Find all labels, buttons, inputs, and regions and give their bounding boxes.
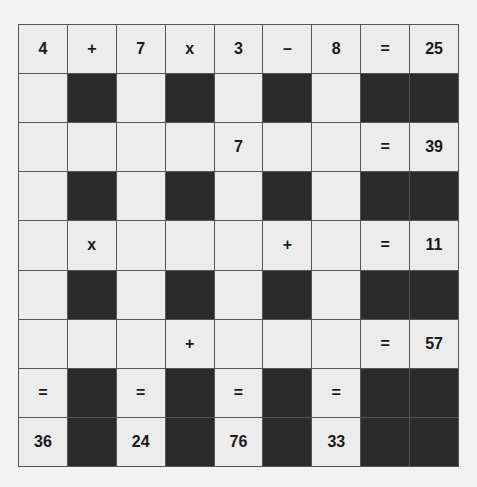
empty-input-cell[interactable] <box>117 74 165 122</box>
number-cell: 25 <box>410 25 458 73</box>
empty-input-cell[interactable] <box>117 172 165 220</box>
number-cell: 11 <box>410 221 458 269</box>
empty-input-cell[interactable] <box>19 320 67 368</box>
empty-input-cell[interactable] <box>263 123 311 171</box>
math-crossword-grid: 4+7x3–8=257=39x+=11+=57====36247633 <box>18 24 459 467</box>
black-cell <box>410 172 458 220</box>
empty-input-cell[interactable] <box>312 320 360 368</box>
black-cell <box>361 271 409 319</box>
empty-input-cell[interactable] <box>166 221 214 269</box>
operator-cell: + <box>68 25 116 73</box>
empty-input-cell[interactable] <box>117 123 165 171</box>
number-cell: 76 <box>215 418 263 466</box>
empty-input-cell[interactable] <box>19 221 67 269</box>
number-cell: 7 <box>117 25 165 73</box>
empty-input-cell[interactable] <box>19 123 67 171</box>
black-cell <box>361 418 409 466</box>
empty-input-cell[interactable] <box>215 74 263 122</box>
black-cell <box>361 172 409 220</box>
empty-input-cell[interactable] <box>215 221 263 269</box>
number-cell: 57 <box>410 320 458 368</box>
operator-cell: x <box>68 221 116 269</box>
number-cell: 39 <box>410 123 458 171</box>
empty-input-cell[interactable] <box>215 271 263 319</box>
black-cell <box>410 74 458 122</box>
black-cell <box>263 271 311 319</box>
black-cell <box>410 271 458 319</box>
operator-cell: = <box>361 320 409 368</box>
empty-input-cell[interactable] <box>312 123 360 171</box>
empty-input-cell[interactable] <box>117 271 165 319</box>
operator-cell: = <box>361 123 409 171</box>
number-cell: 3 <box>215 25 263 73</box>
empty-input-cell[interactable] <box>263 320 311 368</box>
operator-cell: = <box>312 369 360 417</box>
operator-cell: x <box>166 25 214 73</box>
black-cell <box>410 418 458 466</box>
empty-input-cell[interactable] <box>215 172 263 220</box>
empty-input-cell[interactable] <box>68 320 116 368</box>
empty-input-cell[interactable] <box>117 221 165 269</box>
number-cell: 36 <box>19 418 67 466</box>
black-cell <box>68 271 116 319</box>
black-cell <box>263 74 311 122</box>
empty-input-cell[interactable] <box>19 74 67 122</box>
operator-cell: – <box>263 25 311 73</box>
number-cell: 4 <box>19 25 67 73</box>
black-cell <box>68 74 116 122</box>
black-cell <box>68 172 116 220</box>
empty-input-cell[interactable] <box>117 320 165 368</box>
operator-cell: + <box>263 221 311 269</box>
operator-cell: = <box>361 25 409 73</box>
black-cell <box>410 369 458 417</box>
black-cell <box>68 369 116 417</box>
number-cell: 8 <box>312 25 360 73</box>
black-cell <box>166 172 214 220</box>
black-cell <box>361 74 409 122</box>
number-cell: 33 <box>312 418 360 466</box>
black-cell <box>263 418 311 466</box>
operator-cell: = <box>361 221 409 269</box>
black-cell <box>166 271 214 319</box>
empty-input-cell[interactable] <box>68 123 116 171</box>
black-cell <box>166 418 214 466</box>
black-cell <box>263 172 311 220</box>
number-cell: 7 <box>215 123 263 171</box>
empty-input-cell[interactable] <box>312 74 360 122</box>
empty-input-cell[interactable] <box>312 172 360 220</box>
black-cell <box>361 369 409 417</box>
black-cell <box>68 418 116 466</box>
black-cell <box>166 74 214 122</box>
empty-input-cell[interactable] <box>312 271 360 319</box>
empty-input-cell[interactable] <box>312 221 360 269</box>
black-cell <box>263 369 311 417</box>
empty-input-cell[interactable] <box>215 320 263 368</box>
black-cell <box>166 369 214 417</box>
operator-cell: = <box>215 369 263 417</box>
empty-input-cell[interactable] <box>19 271 67 319</box>
operator-cell: + <box>166 320 214 368</box>
number-cell: 24 <box>117 418 165 466</box>
empty-input-cell[interactable] <box>19 172 67 220</box>
operator-cell: = <box>19 369 67 417</box>
operator-cell: = <box>117 369 165 417</box>
empty-input-cell[interactable] <box>166 123 214 171</box>
